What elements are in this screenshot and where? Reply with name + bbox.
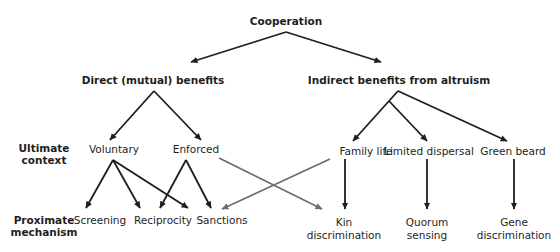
row-label-ultimate-line1: Ultimate (19, 142, 70, 154)
quorum-line2: sensing (406, 229, 449, 242)
arrow-indirect-to-family (353, 101, 389, 141)
arrow-cooperation-to-direct (191, 32, 286, 62)
arrow-enforced-to-kin-cross (219, 158, 322, 209)
row-label-ultimate-context: Ultimate context (19, 142, 70, 166)
arrow-indirect-to-limited (389, 101, 427, 141)
row-label-proximate-line1: Proximate (10, 214, 77, 226)
arrow-indirect-stem (389, 91, 398, 101)
node-direct-benefits: Direct (mutual) benefits (82, 74, 225, 87)
node-quorum-sensing: Quorum sensing (406, 216, 449, 242)
node-cooperation: Cooperation (250, 15, 322, 28)
arrow-cooperation-to-indirect (286, 32, 381, 62)
node-kin-discrimination: Kin discrimination (307, 216, 381, 242)
kin-line2: discrimination (307, 229, 381, 242)
quorum-line1: Quorum (406, 216, 449, 229)
kin-line1: Kin (307, 216, 381, 229)
node-green-beard: Green beard (480, 145, 546, 158)
node-limited-dispersal: Limited dispersal (384, 145, 474, 158)
arrow-direct-to-voluntary (110, 91, 154, 140)
gene-line2: discrimination (477, 229, 551, 242)
arrow-voluntary-to-sanctions (113, 160, 188, 208)
arrow-enforced-to-sanctions (186, 160, 211, 208)
arrow-enforced-to-reciprocity (160, 160, 186, 208)
row-label-ultimate-line2: context (19, 154, 70, 166)
node-reciprocity: Reciprocity (134, 214, 192, 227)
node-voluntary: Voluntary (89, 143, 139, 156)
arrow-indirect-to-greenbeard (398, 91, 507, 141)
arrow-voluntary-to-reciprocity (113, 160, 140, 208)
arrow-family-to-sanctions-cross (222, 159, 330, 209)
row-label-proximate-line2: mechanism (10, 226, 77, 238)
arrow-direct-to-enforced (154, 91, 201, 140)
cooperation-diagram: Cooperation Direct (mutual) benefits Ind… (0, 0, 560, 252)
node-screening: Screening (74, 214, 126, 227)
node-gene-discrimination: Gene discrimination (477, 216, 551, 242)
node-indirect-benefits: Indirect benefits from altruism (308, 74, 490, 87)
node-enforced: Enforced (173, 143, 219, 156)
arrow-voluntary-to-screening (86, 160, 113, 208)
node-sanctions: Sanctions (196, 214, 247, 227)
row-label-proximate-mechanism: Proximate mechanism (10, 214, 77, 238)
gene-line1: Gene (477, 216, 551, 229)
